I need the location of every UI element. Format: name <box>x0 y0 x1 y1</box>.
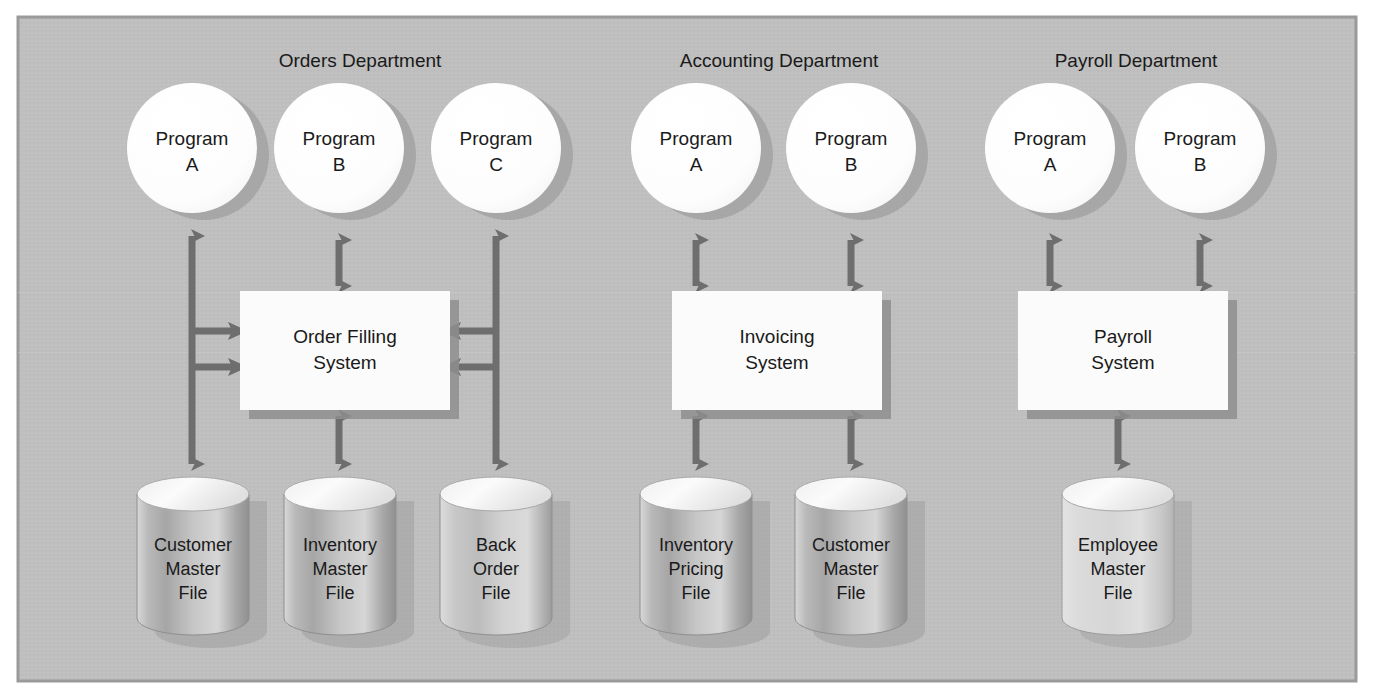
file-label-line2: Order <box>473 559 519 579</box>
system-box-orders[interactable]: Order Filling System <box>240 291 459 419</box>
program-label-line1: Program <box>660 128 733 149</box>
program-label-line1: Program <box>1014 128 1087 149</box>
file-label-line3: File <box>681 583 710 603</box>
program-label-line2: C <box>489 154 503 175</box>
file-label-line2: Master <box>312 559 367 579</box>
system-label-line2: System <box>745 352 808 373</box>
file-label-line3: File <box>178 583 207 603</box>
department-label-accounting: Accounting Department <box>680 50 879 71</box>
file-label-line1: Customer <box>812 535 890 555</box>
file-label-line3: File <box>481 583 510 603</box>
file-label-line1: Employee <box>1078 535 1158 555</box>
system-box-body[interactable] <box>240 291 450 410</box>
program-label-line2: A <box>1044 154 1057 175</box>
system-label-line2: System <box>1091 352 1154 373</box>
program-label-line1: Program <box>815 128 888 149</box>
system-box-body[interactable] <box>672 291 882 410</box>
data-file-accounting-customer-master[interactable]: Customer Master File <box>795 477 925 648</box>
program-label-line1: Program <box>156 128 229 149</box>
program-label-line2: A <box>186 154 199 175</box>
data-file-payroll-employee-master[interactable]: Employee Master File <box>1062 477 1192 648</box>
system-box-payroll[interactable]: Payroll System <box>1018 291 1237 419</box>
cylinder-top <box>640 477 752 511</box>
cylinder-top <box>137 477 249 511</box>
cylinder-top <box>440 477 552 511</box>
cylinder-top <box>795 477 907 511</box>
program-label-line2: B <box>333 154 346 175</box>
file-label-line1: Back <box>476 535 517 555</box>
program-label-line2: A <box>690 154 703 175</box>
system-box-body[interactable] <box>1018 291 1228 410</box>
system-label-line1: Order Filling <box>293 326 396 347</box>
cylinder-top <box>284 477 396 511</box>
program-label-line2: B <box>845 154 858 175</box>
file-label-line3: File <box>1103 583 1132 603</box>
program-label-line1: Program <box>303 128 376 149</box>
file-label-line2: Master <box>165 559 220 579</box>
file-label-line2: Master <box>823 559 878 579</box>
file-label-line3: File <box>836 583 865 603</box>
department-label-payroll: Payroll Department <box>1055 50 1218 71</box>
system-box-accounting[interactable]: Invoicing System <box>672 291 891 419</box>
department-label-orders: Orders Department <box>279 50 442 71</box>
file-label-line1: Inventory <box>303 535 377 555</box>
data-file-accounting-inventory-pricing[interactable]: Inventory Pricing File <box>640 477 770 648</box>
data-file-orders-inventory-master[interactable]: Inventory Master File <box>284 477 414 648</box>
system-label-line1: Invoicing <box>740 326 815 347</box>
file-label-line1: Inventory <box>659 535 733 555</box>
file-label-line2: Master <box>1090 559 1145 579</box>
diagram-canvas: Orders Department <box>0 0 1374 700</box>
file-label-line3: File <box>325 583 354 603</box>
data-file-orders-back-order[interactable]: Back Order File <box>440 477 570 648</box>
cylinder-top <box>1062 477 1174 511</box>
file-label-line1: Customer <box>154 535 232 555</box>
data-file-orders-customer-master[interactable]: Customer Master File <box>137 477 267 648</box>
program-label-line1: Program <box>460 128 533 149</box>
program-label-line2: B <box>1194 154 1207 175</box>
diagram-figure: Orders Department <box>0 0 1374 700</box>
system-label-line1: Payroll <box>1094 326 1152 347</box>
file-label-line2: Pricing <box>668 559 723 579</box>
program-label-line1: Program <box>1164 128 1237 149</box>
system-label-line2: System <box>313 352 376 373</box>
